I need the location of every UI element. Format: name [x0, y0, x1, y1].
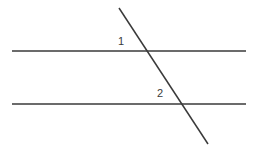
geometry-figure-canvas: 1 2 — [0, 0, 256, 152]
geometry-diagram — [0, 0, 256, 152]
angle-label-1: 1 — [118, 36, 124, 47]
transversal-line — [119, 8, 208, 144]
angle-label-2: 2 — [157, 88, 163, 99]
